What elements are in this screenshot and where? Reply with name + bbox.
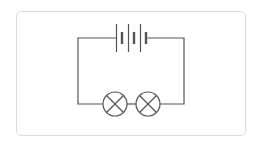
circuit-diagram	[0, 0, 258, 141]
lamp-icon-2	[136, 92, 160, 116]
battery-icon	[117, 24, 147, 52]
lamp-icon-1	[103, 92, 127, 116]
